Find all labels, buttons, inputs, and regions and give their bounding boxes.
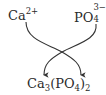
product-part-ca: Ca (27, 76, 45, 91)
product-part-po: (PO (50, 76, 74, 91)
product-sub-po: 4 (75, 83, 80, 93)
arrow-phosphate-to-product (44, 24, 96, 75)
arrow-calcium-to-product (26, 22, 81, 75)
product-sub-group: 2 (85, 83, 90, 93)
product-sub-ca: 3 (45, 83, 50, 93)
calcium-phosphate-formula: Ca3(PO4)2 (27, 77, 91, 90)
